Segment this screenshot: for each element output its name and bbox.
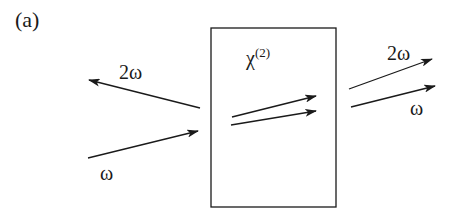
label-output-w: ω xyxy=(410,98,423,118)
internal-arrow-2 xyxy=(231,111,316,125)
label-crystal: χ(2) xyxy=(246,48,270,68)
diagram-canvas xyxy=(0,0,459,212)
internal-arrow-1 xyxy=(232,96,316,117)
reflected-2w-arrow xyxy=(89,80,200,108)
chi-symbol: χ xyxy=(246,47,255,69)
label-reflected-2w: 2ω xyxy=(119,62,142,82)
chi-superscript: (2) xyxy=(255,45,270,60)
label-output-2w: 2ω xyxy=(387,43,410,63)
label-incident-w: ω xyxy=(100,163,113,183)
incident-w-arrow xyxy=(88,131,198,158)
